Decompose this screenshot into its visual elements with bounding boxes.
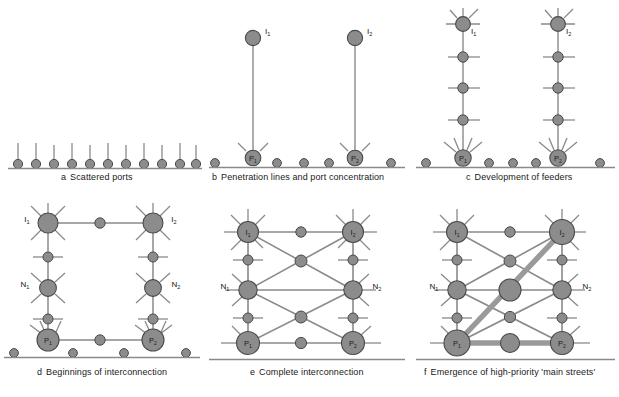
node-I1 — [245, 30, 260, 45]
node-N1-label: N1 — [430, 282, 439, 292]
node-I1 — [38, 213, 58, 233]
panel-d-network: I1 I2 N1 N2 P1 P2 — [4, 203, 200, 358]
node-N1 — [239, 281, 257, 299]
node-I2-label: I2 — [171, 215, 176, 225]
caption-a-text: Scattered ports — [70, 172, 133, 182]
caption-b-letter: b — [212, 172, 217, 182]
lattice-node-top — [296, 227, 306, 237]
caption-f-letter: f — [424, 367, 427, 377]
panel-a — [0, 0, 205, 180]
caption-d: dBeginnings of interconnection — [37, 367, 167, 377]
caption-e-letter: e — [250, 367, 255, 377]
node-I1-label: I1 — [24, 215, 29, 225]
corridor-node — [243, 313, 253, 323]
node-N2 — [344, 281, 362, 299]
node-I1-label: I1 — [265, 27, 270, 37]
caption-f-text: Emergence of high-priority 'main streets… — [431, 367, 596, 377]
node-I1-label: I1 — [471, 27, 476, 37]
panel-e: I1 I2 N1 N2 P1 P2 — [205, 195, 410, 375]
caption-c-letter: c — [466, 172, 471, 182]
panel-c-network: I1 I2 P1 P2 — [416, 8, 615, 168]
node-N1 — [448, 281, 466, 299]
lattice-node-upper-mid — [295, 255, 307, 267]
corridor-node — [458, 83, 468, 93]
caption-b-text: Penetration lines and port concentration — [221, 172, 384, 182]
caption-e-text: Complete interconnection — [259, 367, 363, 377]
panel-f: I1 I2 N1 N2 P1 P2 — [410, 195, 619, 375]
node-N2-label: N2 — [172, 280, 181, 290]
node-N2-label: N2 — [583, 282, 592, 292]
corridor-node — [458, 115, 468, 125]
node-N2-label: N2 — [373, 282, 382, 292]
node-N2 — [553, 281, 571, 299]
figure-canvas: aScattered ports — [0, 0, 619, 397]
caption-a-letter: a — [61, 172, 66, 182]
lattice-node-lower-mid — [295, 311, 307, 323]
corridor-node — [452, 255, 462, 265]
caption-e: eComplete interconnection — [250, 367, 364, 377]
node-I2 — [551, 17, 566, 32]
node-I2-label: I2 — [566, 27, 571, 37]
panel-e-network: I1 I2 N1 N2 P1 P2 — [209, 209, 405, 360]
caption-a: aScattered ports — [61, 172, 133, 182]
caption-d-text: Beginnings of interconnection — [46, 367, 167, 377]
corridor-node — [348, 255, 358, 265]
caption-c-text: Development of feeders — [475, 172, 573, 182]
corridor-node — [458, 52, 468, 62]
node-I2 — [347, 30, 362, 45]
lattice-node-bottom — [295, 337, 306, 348]
corridor-node — [557, 255, 567, 265]
central-hub-node — [499, 279, 521, 301]
lattice-node-upper-mid — [504, 255, 516, 267]
caption-c: cDevelopment of feeders — [466, 172, 572, 182]
corridor-node — [43, 252, 53, 262]
corridor-node — [553, 115, 563, 125]
panel-a-ports — [8, 143, 202, 169]
panel-b-network: P1 P2 I1 I2 — [209, 27, 405, 168]
node-N1-label: N1 — [21, 280, 30, 290]
node-N2 — [145, 280, 162, 297]
lattice-node-lower-mid — [504, 311, 515, 322]
lateral-node-top — [95, 218, 105, 228]
corridor-node — [243, 255, 253, 265]
corridor-node — [553, 52, 563, 62]
corridor-node — [348, 313, 358, 323]
node-N1 — [40, 280, 57, 297]
corridor-node — [553, 83, 563, 93]
lateral-node-bottom — [95, 335, 105, 345]
node-I2-label: I2 — [367, 27, 372, 37]
corridor-node — [557, 313, 567, 323]
corridor-node — [43, 314, 53, 324]
node-I2 — [143, 213, 163, 233]
caption-b: bPenetration lines and port concentratio… — [212, 172, 384, 182]
panel-d: I1 I2 N1 N2 P1 P2 — [0, 195, 205, 375]
coastal-mid-node — [501, 334, 520, 353]
panel-b: P1 P2 I1 I2 — [205, 0, 410, 180]
corridor-node — [452, 313, 462, 323]
caption-f: fEmergence of high-priority 'main street… — [424, 367, 595, 377]
panel-c: I1 I2 P1 P2 — [410, 0, 619, 180]
caption-d-letter: d — [37, 367, 42, 377]
node-I1 — [456, 17, 471, 32]
corridor-node — [148, 314, 158, 324]
panel-f-network: I1 I2 N1 N2 P1 P2 — [416, 209, 615, 360]
lattice-node-top — [505, 227, 515, 237]
node-N1-label: N1 — [221, 282, 230, 292]
corridor-node — [148, 252, 158, 262]
